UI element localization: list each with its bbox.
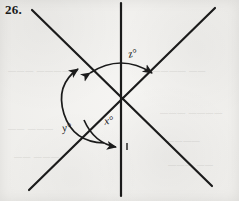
geometry-figure [0, 0, 239, 201]
figure-page: ——— ————————— ———— —————— —————————— ———… [0, 0, 239, 201]
problem-number: 26. [5, 2, 22, 18]
angle-label-x: x° [103, 113, 114, 126]
angle-label-y: y° [61, 120, 72, 134]
